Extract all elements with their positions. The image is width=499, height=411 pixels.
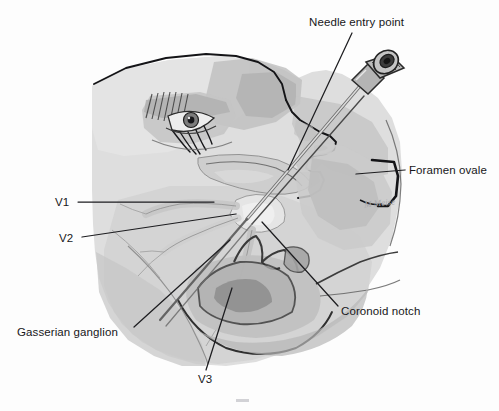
label-v1: V1 <box>55 197 69 209</box>
footer-mark <box>236 399 249 402</box>
label-v3: V3 <box>198 374 212 386</box>
illustration-canvas <box>0 0 499 411</box>
label-v2: V2 <box>59 233 73 245</box>
label-coronoid-notch: Coronoid notch <box>341 306 420 318</box>
anatomical-figure: Needle entry point Foramen ovale Coronoi… <box>0 0 499 411</box>
label-needle-entry-point: Needle entry point <box>309 17 404 29</box>
label-gasserian-ganglion: Gasserian ganglion <box>17 327 118 339</box>
label-foramen-ovale: Foramen ovale <box>409 165 487 177</box>
